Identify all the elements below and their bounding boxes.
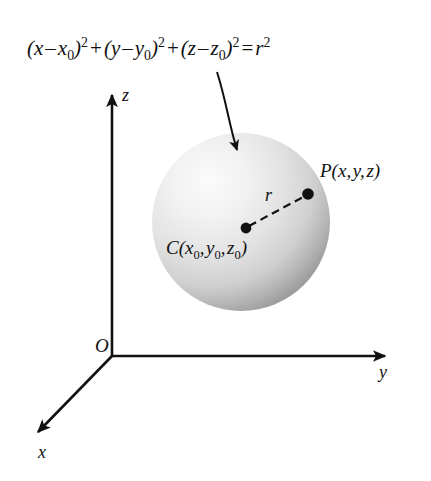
- equation-radius-exponent: 2: [264, 35, 271, 50]
- equation-term3-subscript: 0: [219, 48, 226, 63]
- equation-radius-var: r: [255, 36, 263, 60]
- equation-minus-2: –: [120, 36, 135, 60]
- radius-label: r: [265, 186, 272, 204]
- center-c-comma-2: ,: [221, 237, 226, 258]
- equation-exponent-2: 2: [158, 35, 165, 50]
- x-axis-label: x: [38, 443, 46, 461]
- equation-term2-var-sub: y: [135, 36, 144, 60]
- equation-term3-var: z: [188, 36, 196, 60]
- sphere-shape: [152, 133, 330, 311]
- equation-term1-var-sub: x: [58, 36, 67, 60]
- center-c-label: C(x0, y0, z0): [166, 238, 247, 261]
- origin-label: O: [95, 336, 109, 355]
- equation-minus-3: –: [196, 36, 211, 60]
- point-p-close-paren: ): [374, 160, 380, 181]
- equation-open-paren-2: (: [104, 36, 111, 60]
- equation-term2-var: y: [111, 36, 120, 60]
- point-p-comma-1: ,: [346, 160, 351, 181]
- center-c-var2: y: [206, 237, 214, 258]
- equation-term2-subscript: 0: [144, 48, 151, 63]
- equation-term1-var: x: [34, 36, 43, 60]
- point-p-var3: z: [366, 160, 373, 181]
- center-point-dot: [241, 223, 252, 234]
- surface-point-dot: [302, 188, 314, 200]
- point-p-comma-2: ,: [360, 160, 365, 181]
- point-p-var2: y: [353, 160, 360, 181]
- equation-minus-1: –: [43, 36, 58, 60]
- center-c-var3: z: [227, 237, 234, 258]
- equation-plus-2: +: [165, 36, 181, 60]
- equation-open-paren-1: (: [27, 36, 34, 60]
- sphere-equation-figure: (x–x0)2+(y–y0)2+(z–z0)2=r2 z y x O r P(x…: [0, 0, 431, 481]
- center-c-comma-1: ,: [200, 237, 205, 258]
- equation-close-paren-3: ): [226, 36, 233, 60]
- z-axis-label: z: [122, 86, 129, 104]
- x-axis: [38, 356, 112, 432]
- point-p-label: P(x, y, z): [320, 161, 380, 180]
- center-c-name: C: [166, 237, 179, 258]
- equation-close-paren-2: ): [151, 36, 158, 60]
- equation-plus-1: +: [88, 36, 104, 60]
- y-axis-label: y: [379, 363, 387, 381]
- sphere-equation: (x–x0)2+(y–y0)2+(z–z0)2=r2: [27, 36, 270, 63]
- center-c-close-paren: ): [241, 237, 247, 258]
- equation-exponent-1: 2: [81, 35, 88, 50]
- equation-exponent-3: 2: [233, 35, 240, 50]
- equation-open-paren-3: (: [181, 36, 188, 60]
- equation-term3-var-sub: z: [210, 36, 218, 60]
- point-p-name: P: [320, 160, 332, 181]
- equation-equals: =: [240, 36, 256, 60]
